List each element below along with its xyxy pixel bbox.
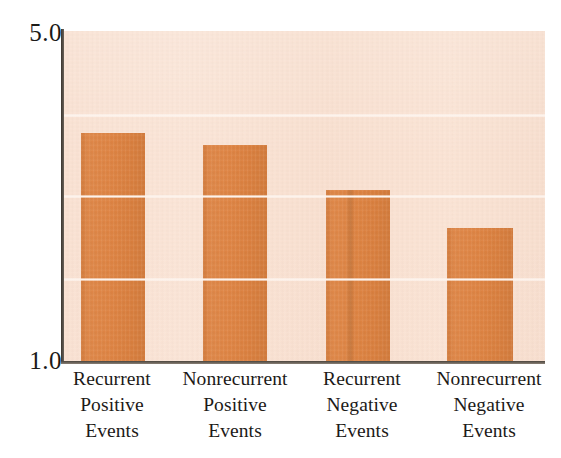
scan-streak-artifact	[346, 190, 355, 361]
category-label-line-1: Recurrent	[303, 366, 421, 392]
gridline-4	[64, 114, 545, 117]
bar-chart-figure: 5.0 1.0 Recurrent Positive Events Nonrec…	[0, 0, 561, 458]
x-axis-category-label-2: Nonrecurrent Positive Events	[169, 366, 301, 444]
category-label-line-3: Events	[303, 418, 421, 444]
x-axis-line	[61, 361, 545, 364]
plot-area	[64, 31, 545, 361]
bar-nonrecurrent-positive-events[interactable]	[203, 145, 267, 361]
category-label-line-1: Recurrent	[56, 366, 168, 392]
category-label-line-3: Events	[421, 418, 557, 444]
category-label-line-3: Events	[56, 418, 168, 444]
bar-recurrent-negative-events[interactable]	[326, 190, 390, 361]
gridline-2	[64, 278, 545, 281]
gridline-3	[64, 195, 545, 198]
x-axis-category-label-4: Nonrecurrent Negative Events	[421, 366, 557, 444]
x-axis-category-label-3: Recurrent Negative Events	[303, 366, 421, 444]
category-label-line-2: Positive	[56, 392, 168, 418]
bar-nonrecurrent-negative-events[interactable]	[447, 228, 513, 361]
category-label-line-1: Nonrecurrent	[421, 366, 557, 392]
bar-recurrent-positive-events[interactable]	[81, 133, 145, 361]
y-axis-tick-label-bottom: 1.0	[2, 348, 62, 373]
category-label-line-3: Events	[169, 418, 301, 444]
category-label-line-1: Nonrecurrent	[169, 366, 301, 392]
category-label-line-2: Positive	[169, 392, 301, 418]
category-label-line-2: Negative	[421, 392, 557, 418]
x-axis-category-label-1: Recurrent Positive Events	[56, 366, 168, 444]
y-axis-tick-label-top: 5.0	[2, 20, 62, 45]
category-label-line-2: Negative	[303, 392, 421, 418]
